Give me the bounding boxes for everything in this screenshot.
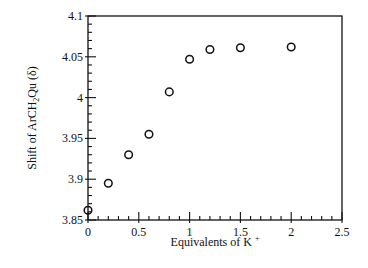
x-tick-label: 0.5 bbox=[131, 225, 146, 239]
plot-frame bbox=[88, 16, 342, 220]
x-axis-title: Equivalents of K + bbox=[171, 234, 260, 249]
y-axis-title: Shift of ArCH2Qu (δ) bbox=[25, 66, 41, 169]
y-tick-label: 3.85 bbox=[62, 213, 83, 227]
x-tick-label: 0 bbox=[85, 225, 91, 239]
data-point-marker bbox=[125, 151, 133, 159]
scatter-chart: 00.511.522.5 3.853.93.9544.054.1 Equival… bbox=[0, 0, 368, 268]
y-axis-ticks: 3.853.93.9544.054.1 bbox=[62, 9, 96, 227]
data-point-marker bbox=[145, 131, 153, 139]
y-tick-label: 3.95 bbox=[62, 131, 83, 145]
data-point-marker bbox=[165, 88, 173, 96]
data-point-marker bbox=[287, 43, 295, 51]
x-tick-label: 2 bbox=[288, 225, 294, 239]
y-tick-label: 4.1 bbox=[68, 9, 83, 23]
data-point-marker bbox=[237, 44, 245, 52]
y-tick-label: 3.9 bbox=[68, 172, 83, 186]
y-tick-label: 4 bbox=[77, 91, 83, 105]
data-point-marker bbox=[206, 46, 214, 54]
x-tick-label: 2.5 bbox=[335, 225, 350, 239]
y-tick-label: 4.05 bbox=[62, 50, 83, 64]
data-point-marker bbox=[186, 55, 194, 63]
data-points bbox=[84, 43, 295, 214]
data-point-marker bbox=[105, 179, 113, 187]
